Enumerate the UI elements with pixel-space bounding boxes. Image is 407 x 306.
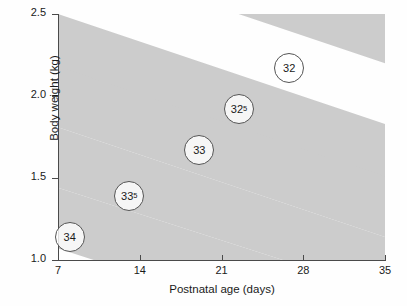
y-tick-2.5 <box>52 14 58 15</box>
x-tick-label-21: 21 <box>202 264 242 276</box>
x-tick-35 <box>385 255 386 261</box>
x-tick-28 <box>303 255 304 261</box>
x-tick-7 <box>58 255 59 261</box>
y-tick-label-1.0: 1.0 <box>0 252 46 264</box>
gestational-age-bands <box>58 14 385 260</box>
x-tick-label-35: 35 <box>365 264 405 276</box>
y-tick-label-2.0: 2.0 <box>0 88 46 100</box>
x-tick-label-28: 28 <box>283 264 323 276</box>
y-tick-1.5 <box>52 178 58 179</box>
x-axis-title: Postnatal age (days) <box>58 283 386 295</box>
y-axis-title: Body weight (kg) <box>48 38 60 158</box>
growth-chart: 1.01.52.02.5 714212835 Body weight (kg) … <box>0 0 407 306</box>
x-tick-label-14: 14 <box>120 264 160 276</box>
plot-area <box>58 14 385 260</box>
x-tick-label-7: 7 <box>38 264 78 276</box>
y-tick-label-1.5: 1.5 <box>0 170 46 182</box>
y-tick-label-2.5: 2.5 <box>0 6 46 18</box>
x-tick-14 <box>140 255 141 261</box>
zone-label-32-5: 325 <box>224 94 254 124</box>
x-tick-21 <box>222 255 223 261</box>
zone-label-34: 34 <box>55 222 85 252</box>
